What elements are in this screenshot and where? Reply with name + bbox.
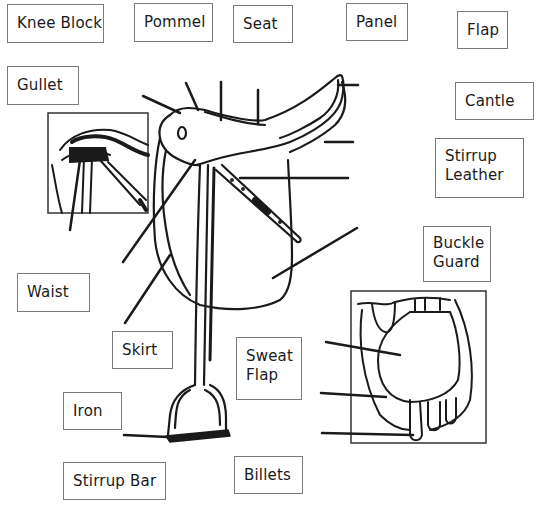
label-billets: Billets	[234, 456, 303, 494]
leader-line-pommel	[186, 83, 198, 110]
label-panel: Panel	[346, 3, 408, 41]
leader-line-waist	[125, 255, 170, 323]
label-knee-block: Knee Block	[7, 4, 104, 43]
leader-line-flap	[273, 228, 357, 278]
label-buckle-guard: Buckle Guard	[423, 226, 491, 282]
label-flap: Flap	[457, 11, 508, 49]
stirrup-leather-strap	[195, 165, 200, 385]
label-waist: Waist	[17, 273, 90, 312]
label-pommel: Pommel	[134, 3, 213, 42]
underside-detail-inset	[321, 291, 486, 443]
leader-line-skirt	[150, 240, 152, 250]
label-stirrup-bar: Stirrup Bar	[63, 462, 166, 500]
label-iron: Iron	[63, 392, 122, 430]
label-seat: Seat	[233, 5, 293, 43]
flap-outline	[154, 138, 292, 309]
stirrup-bar-detail-inset	[48, 113, 148, 230]
label-gullet: Gullet	[7, 66, 79, 105]
label-stirrup-leather: Stirrup Leather	[435, 138, 524, 198]
leader-line-gullet	[143, 96, 180, 113]
label-sweat-flap: Sweat Flap	[236, 337, 302, 400]
label-cantle: Cantle	[455, 82, 534, 120]
leader-line-iron	[124, 435, 168, 437]
label-skirt: Skirt	[112, 331, 173, 369]
